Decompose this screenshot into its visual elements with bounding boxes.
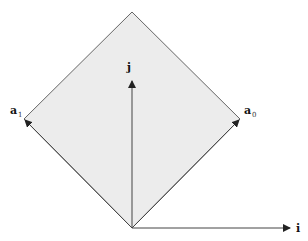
label-a0-subscript: 0 [252,111,256,119]
label-a1: a [10,104,17,117]
label-a0: a [244,104,251,117]
lattice-diagram: j a 1 a 0 i [0,0,308,241]
label-j: j [126,61,131,74]
label-a1-subscript: 1 [18,111,22,119]
label-i: i [296,222,300,235]
